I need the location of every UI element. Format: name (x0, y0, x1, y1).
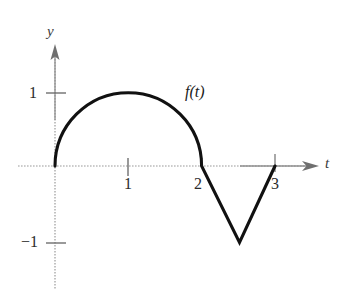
x-tick-label-3: 3 (271, 176, 279, 192)
function-graph-figure: y t f(t) 1 −1 1 2 3 (0, 0, 346, 289)
function-curve (55, 93, 275, 243)
y-tick-label-1: 1 (29, 85, 37, 101)
t-axis-label: t (325, 156, 329, 171)
function-label: f(t) (185, 84, 205, 100)
graph-canvas (0, 0, 346, 289)
x-tick-label-2: 2 (194, 176, 202, 192)
x-tick-label-1: 1 (124, 176, 132, 192)
y-axis-label: y (47, 24, 54, 39)
y-tick-label-minus-1: −1 (21, 234, 38, 250)
